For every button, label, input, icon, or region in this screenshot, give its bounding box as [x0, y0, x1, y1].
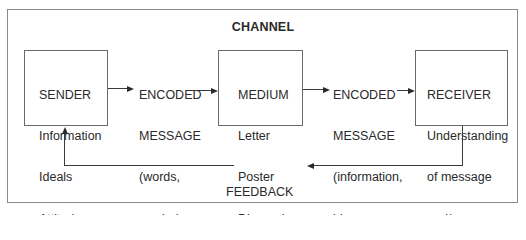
encoded-message-2: ENCODED MESSAGE (information, ideas, att…: [333, 61, 402, 215]
receiver-line: of message: [427, 171, 517, 185]
encoded-line: MESSAGE: [139, 130, 215, 144]
encoded-line: (words,: [139, 171, 215, 185]
encoded-line: (information,: [333, 171, 402, 185]
medium-heading: MEDIUM: [238, 89, 298, 103]
receiver-text: RECEIVER Understanding of message and/or…: [427, 61, 517, 215]
arrow-medium-to-encoded: [303, 89, 325, 90]
sender-text: SENDER Information Ideals Attitudes Need…: [39, 61, 102, 215]
arrow-encoded-to-medium: [191, 90, 212, 91]
receiver-line: Understanding: [427, 130, 517, 144]
receiver-line: and/or response: [427, 213, 517, 215]
encoded-line: ENCODED: [333, 89, 402, 103]
sender-line: Ideals: [39, 171, 102, 185]
arrow-head-icon: [408, 88, 415, 94]
feedback-label: FEEDBACK Message received and understood: [208, 158, 338, 215]
arrow-head-icon: [127, 86, 134, 92]
encoded-message-1: ENCODED MESSAGE (words, symbols sounds, …: [139, 61, 215, 215]
arrow-head-icon: [211, 88, 218, 94]
channel-title: CHANNEL: [0, 20, 526, 34]
medium-line: Letter: [238, 130, 298, 144]
arrow-sender-to-encoded: [108, 88, 128, 89]
encoded-line: ideas,: [333, 213, 402, 215]
encoded-line: symbols: [139, 213, 215, 215]
sender-line: Information: [39, 130, 102, 144]
feedback-line-receiver-down: [462, 126, 463, 166]
feedback-line-sender-up: [64, 133, 65, 166]
arrow-head-icon: [62, 127, 68, 134]
feedback-heading: FEEDBACK: [208, 186, 338, 200]
sender-heading: SENDER: [39, 89, 102, 103]
arrow-head-icon: [323, 87, 330, 93]
encoded-line: MESSAGE: [333, 130, 402, 144]
sender-line: Attitudes: [39, 213, 102, 215]
receiver-heading: RECEIVER: [427, 89, 517, 103]
